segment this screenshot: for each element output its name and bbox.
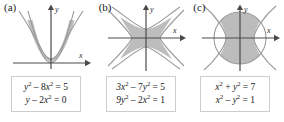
panel-a-x-axis-arrow [85, 60, 91, 66]
eq-c1-exp2: 2 [237, 80, 240, 87]
panel-a-equation-1: y2 – 8x2 = 5 [24, 81, 68, 94]
eq-a2-op: – [32, 95, 37, 105]
panel-b-equation-2: 9y2 – 2x2 = 1 [116, 94, 165, 107]
panel-c-equation-box: x2 + y2 = 7 x2 – y2 = 1 [200, 76, 270, 112]
panel-b-y-axis-label: y [149, 5, 154, 14]
panel-b: (b) [95, 0, 190, 122]
panel-b-x-axis-label: x [172, 26, 177, 35]
eq-c2-equals: = [242, 95, 247, 105]
panel-a-y-axis-label: y [54, 5, 59, 14]
panel-a-y-axis-arrow [48, 5, 54, 11]
panel-b-x-axis-arrow [180, 35, 186, 41]
panel-b-equation-1: 3x2 – 7y2 = 5 [116, 81, 165, 94]
eq-c1-value: 7 [251, 82, 256, 92]
eq-b1-op: – [131, 82, 136, 92]
eq-c1-equals: = [243, 82, 248, 92]
eq-b1-exp1: 2 [125, 80, 128, 87]
panel-a-x-axis-label: x [78, 51, 83, 60]
eq-c2-exp1: 2 [220, 93, 223, 100]
eq-b2-var1: 9y [116, 95, 125, 105]
eq-b1-var1: 3x [116, 82, 125, 92]
eq-a1-op: – [34, 82, 39, 92]
panel-a-label: (a) [4, 1, 16, 13]
panel-b-equation-box: 3x2 – 7y2 = 5 9y2 – 2x2 = 1 [106, 76, 176, 112]
eq-a2-var1: y [26, 95, 30, 105]
panel-a-plot: x y [9, 3, 93, 73]
eq-c2-exp2: 2 [237, 93, 240, 100]
panel-a-equation-box: y2 – 8x2 = 5 y – 2x2 = 0 [11, 76, 81, 112]
panel-c-equation-2: x2 – y2 = 1 [216, 94, 255, 107]
eq-b2-op: – [131, 95, 136, 105]
eq-a1-exp2: 2 [50, 80, 53, 87]
eq-a1-exp1: 2 [28, 80, 31, 87]
panel-a: (a) x [0, 0, 95, 122]
panel-a-equation-2: y – 2x2 = 0 [26, 94, 67, 107]
panel-c-x-axis-label: x [266, 26, 271, 35]
eq-a2-exp2: 2 [48, 93, 51, 100]
eq-b2-exp1: 2 [125, 93, 128, 100]
eq-c1-op: + [225, 82, 230, 92]
eq-a2-equals: = [54, 95, 59, 105]
panel-b-label: (b) [99, 1, 112, 13]
eq-a2-value: 0 [62, 95, 67, 105]
eq-c2-value: 1 [250, 95, 255, 105]
eq-c1-exp1: 2 [220, 80, 223, 87]
panel-c-plot: x y [198, 3, 282, 73]
panel-b-y-axis-arrow [143, 5, 149, 11]
eq-b2-equals: = [153, 95, 158, 105]
eq-a1-equals: = [56, 82, 61, 92]
panel-c-y-axis-label: y [243, 5, 248, 14]
eq-c2-op: – [226, 95, 231, 105]
eq-a1-value: 5 [63, 82, 68, 92]
conic-systems-figure: (a) x [0, 0, 284, 122]
eq-b2-value: 1 [160, 95, 165, 105]
eq-b2-exp2: 2 [147, 93, 150, 100]
eq-b1-value: 5 [160, 82, 165, 92]
eq-b1-equals: = [153, 82, 158, 92]
panel-c-label: (c) [193, 1, 205, 13]
panel-c: (c) [189, 0, 284, 122]
eq-b1-exp2: 2 [147, 80, 150, 87]
panel-b-plot: x y [104, 3, 188, 73]
